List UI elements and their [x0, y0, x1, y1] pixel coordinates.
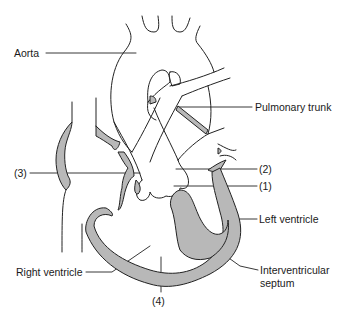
- left-atrium-wall: [208, 86, 211, 134]
- interventricular-label: Interventricular: [260, 264, 329, 276]
- aortic-branch-1: [142, 16, 159, 32]
- tricuspid-muscle: [118, 152, 134, 210]
- pulmonary-trunk-left: [132, 98, 160, 152]
- aorta-descending-right: [154, 108, 178, 160]
- aorta-label: Aorta: [14, 47, 39, 59]
- marker-4-label: (4): [152, 295, 165, 307]
- aortic-arch-right: [196, 26, 214, 72]
- pulmonary-trunk-right: [150, 96, 182, 162]
- marker-1-label: (1): [259, 180, 272, 192]
- marker-2-label: (2): [259, 163, 272, 175]
- pulmonary-vein-3: [220, 155, 236, 160]
- pulmonary-vein-muscle: [218, 148, 221, 154]
- heart-diagram: Aorta Pulmonary trunk (3) (2) (1) Left v…: [0, 0, 346, 317]
- septum-label: septum: [260, 277, 294, 289]
- right-atrium-outer-bottom: [62, 190, 66, 252]
- right-atrium-muscle: [56, 122, 72, 190]
- ventricular-wall: [86, 168, 241, 286]
- marker-3-label: (3): [14, 167, 27, 179]
- pulmonary-trunk-label: Pulmonary trunk: [255, 101, 331, 113]
- valve-muscle-small: [135, 180, 140, 194]
- aortic-branch-2: [172, 16, 190, 32]
- left-atrium-top: [178, 134, 208, 160]
- pulmonary-valve-muscle: [150, 96, 156, 104]
- aorta-outline: [111, 24, 132, 152]
- pulmonary-vein-1: [208, 128, 224, 134]
- left-ventricle-label: Left ventricle: [259, 213, 319, 225]
- left-atrium-muscle: [176, 106, 208, 134]
- right-ventricle-label: Right ventricle: [16, 266, 83, 278]
